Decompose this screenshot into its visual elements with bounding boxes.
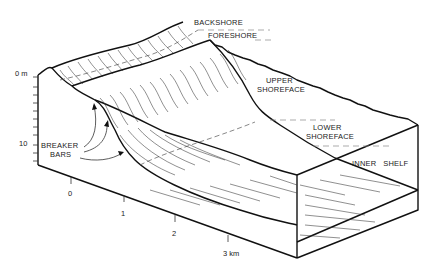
zone-labels: BACKSHORE FORESHORE UPPER SHOREFACE LOWE…	[41, 18, 409, 168]
distance-tick-1: 1	[121, 209, 125, 218]
label-foreshore: FORESHORE	[208, 31, 257, 40]
label-inner-shelf: INNER SHELF	[352, 159, 409, 168]
distance-tick-2: 2	[172, 229, 176, 238]
label-breaker: BREAKER	[41, 141, 79, 150]
shoreface-block-diagram: 0 m 10 0 1 2 3 km BACKSHORE FORESHORE UP…	[0, 0, 434, 273]
distance-tick-3: 3 km	[223, 249, 239, 258]
label-lower-1: LOWER	[313, 123, 342, 132]
depth-axis: 0 m 10	[15, 69, 38, 161]
distance-tick-0: 0	[68, 189, 72, 198]
label-lower-2: SHOREFACE	[306, 132, 354, 141]
distance-axis: 0 1 2 3 km	[68, 177, 239, 258]
label-backshore: BACKSHORE	[194, 18, 243, 27]
label-upper-1: UPPER	[266, 76, 293, 85]
label-upper-2: SHOREFACE	[257, 85, 305, 94]
depth-label-0: 0 m	[15, 69, 28, 78]
surface-outline	[38, 22, 418, 225]
label-bars: BARS	[50, 150, 71, 159]
depth-label-10: 10	[19, 139, 27, 148]
breaker-arrows	[80, 103, 124, 160]
